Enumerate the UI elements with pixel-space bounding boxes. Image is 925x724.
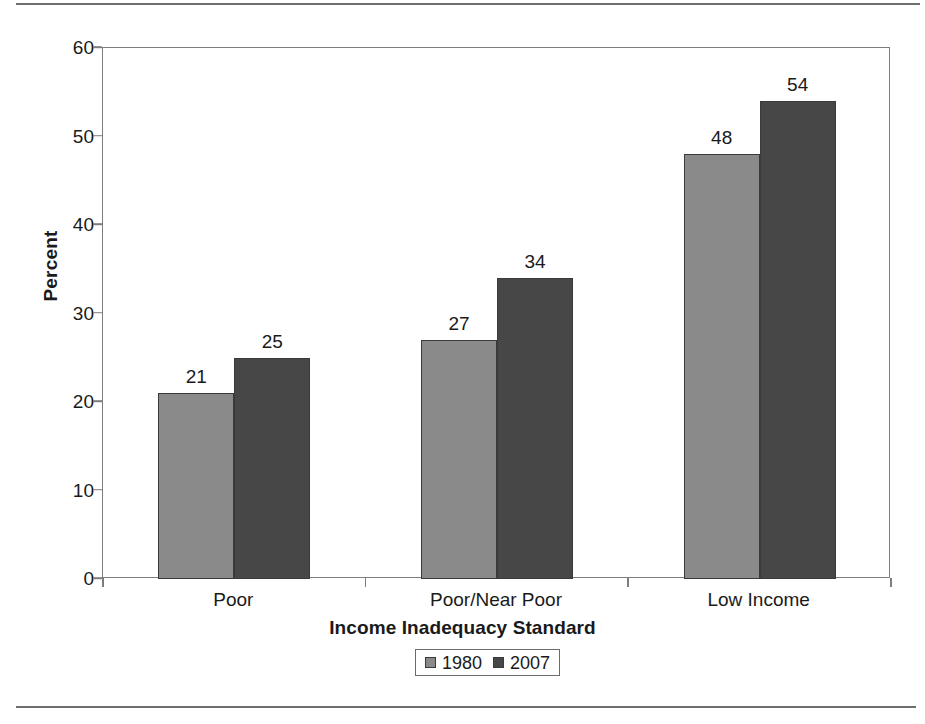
bar-value-label: 48 [711, 127, 732, 149]
x-axis-category-label: Low Income [707, 589, 809, 611]
bar-2007-low-income [760, 101, 836, 579]
y-axis-tick-label: 10 [52, 480, 94, 499]
chart-legend: 19802007 [415, 649, 560, 676]
x-axis-tick-mark [890, 578, 892, 587]
bar-2007-poor-near-poor [497, 278, 573, 579]
x-axis-tick-mark [102, 578, 104, 587]
y-axis-tick-label: 20 [52, 392, 94, 411]
bar-value-label: 34 [524, 251, 545, 273]
bar-value-label: 27 [448, 313, 469, 335]
y-axis-tick-mark [93, 489, 102, 491]
x-axis-title: Income Inadequacy Standard [0, 617, 925, 639]
plot-area: 212527344854 [102, 47, 890, 578]
x-axis-tick-mark [365, 578, 367, 587]
y-axis-tick-label: 0 [52, 569, 94, 588]
y-axis-tick-mark [93, 223, 102, 225]
x-axis-category-label: Poor/Near Poor [430, 589, 562, 611]
y-axis-tick-mark [93, 312, 102, 314]
legend-label: 2007 [510, 654, 550, 672]
x-axis-category-label: Poor [213, 589, 253, 611]
y-axis-tick-label: 30 [52, 303, 94, 322]
bar-value-label: 54 [787, 74, 808, 96]
bar-value-label: 25 [262, 331, 283, 353]
y-axis-tick-label: 60 [52, 38, 94, 57]
legend-swatch-icon [425, 657, 436, 668]
y-axis-tick-mark [93, 577, 102, 579]
bar-chart-figure: Percent 0102030405060 212527344854 PoorP… [0, 0, 925, 724]
bar-1980-poor [158, 393, 234, 579]
y-axis-tick-label: 40 [52, 215, 94, 234]
y-axis-tick-mark [93, 46, 102, 48]
bar-value-label: 21 [186, 366, 207, 388]
y-axis-tick-mark [93, 135, 102, 137]
y-axis-tick-mark [93, 400, 102, 402]
legend-label: 1980 [442, 654, 482, 672]
bar-2007-poor [234, 358, 310, 579]
legend-swatch-icon [493, 657, 504, 668]
bar-1980-poor-near-poor [421, 340, 497, 579]
bottom-horizontal-rule [16, 706, 916, 708]
top-horizontal-rule [16, 3, 920, 5]
legend-entry-2007: 2007 [493, 654, 550, 672]
x-axis-tick-mark [627, 578, 629, 587]
bar-1980-low-income [684, 154, 760, 579]
y-axis-tick-label: 50 [52, 126, 94, 145]
legend-entry-1980: 1980 [425, 654, 482, 672]
